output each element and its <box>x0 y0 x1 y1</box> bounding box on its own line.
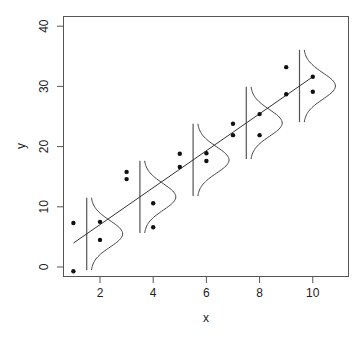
data-point <box>231 122 235 126</box>
chart: 010203040 246810 x y <box>0 0 363 341</box>
data-point <box>124 170 128 174</box>
data-point <box>231 133 235 137</box>
y-tick-label: 40 <box>37 19 51 33</box>
data-point <box>257 133 261 137</box>
x-tick-label: 4 <box>150 286 157 300</box>
data-point <box>204 151 208 155</box>
regression-line <box>73 77 312 243</box>
data-point <box>151 201 155 205</box>
data-point <box>71 221 75 225</box>
data-point <box>98 220 102 224</box>
data-point <box>124 177 128 181</box>
x-axis: 246810 <box>97 277 320 301</box>
data-point <box>204 159 208 163</box>
data-point <box>98 238 102 242</box>
data-point <box>284 92 288 96</box>
y-tick-label: 0 <box>37 263 51 270</box>
x-tick-label: 8 <box>256 286 263 300</box>
normal-density-curves <box>87 50 336 270</box>
y-axis-label: y <box>14 143 28 149</box>
y-tick-label: 30 <box>37 79 51 93</box>
x-tick-label: 6 <box>203 286 210 300</box>
x-axis-label: x <box>203 311 209 325</box>
data-point <box>284 65 288 69</box>
x-tick-label: 2 <box>97 286 104 300</box>
data-point <box>71 269 75 273</box>
x-tick-label: 10 <box>306 286 320 300</box>
data-point <box>178 152 182 156</box>
data-point <box>178 165 182 169</box>
y-tick-label: 20 <box>37 140 51 154</box>
y-tick-label: 10 <box>37 200 51 214</box>
data-point <box>311 75 315 79</box>
data-point <box>257 112 261 116</box>
y-axis: 010203040 <box>37 19 64 270</box>
data-point <box>151 225 155 229</box>
data-point <box>311 90 315 94</box>
